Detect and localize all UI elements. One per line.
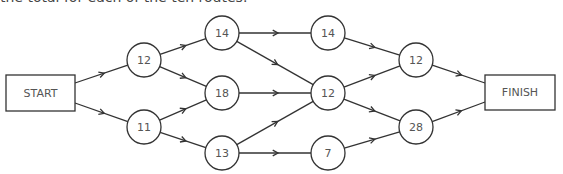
- edge-arrow: [237, 41, 313, 84]
- edge-arrow: [160, 100, 207, 120]
- edge-arrow: [432, 65, 485, 83]
- edge-arrow: [344, 38, 399, 55]
- node-b: 11: [127, 110, 161, 144]
- edge-arrow: [160, 39, 206, 55]
- edge-arrow: [75, 65, 128, 83]
- node-value: 12: [137, 54, 151, 67]
- node-value: 7: [325, 147, 332, 160]
- node-h: 7: [311, 136, 345, 170]
- node-a: 12: [127, 43, 161, 77]
- node-value: 14: [321, 27, 335, 40]
- edge-arrow: [344, 66, 400, 87]
- edge-arrow: [75, 103, 128, 122]
- node-value: 11: [137, 121, 151, 134]
- edge-arrow: [160, 67, 207, 87]
- start-label: START: [24, 87, 58, 100]
- edge-arrow: [344, 99, 400, 121]
- edge-arrow: [344, 132, 399, 148]
- node-value: 28: [409, 121, 423, 134]
- node-j: 28: [399, 110, 433, 144]
- edge-arrow: [160, 132, 206, 147]
- edge-arrow: [237, 101, 313, 144]
- route-network-diagram: STARTFINISH1211141813141271228: [0, 0, 563, 174]
- node-i: 12: [399, 43, 433, 77]
- node-value: 18: [215, 87, 229, 100]
- node-value: 13: [215, 147, 229, 160]
- node-g: 12: [311, 76, 345, 110]
- start-box: START: [6, 75, 75, 111]
- node-c: 14: [205, 16, 239, 50]
- finish-label: FINISH: [502, 86, 538, 99]
- node-d: 18: [205, 76, 239, 110]
- node-e: 13: [205, 136, 239, 170]
- node-value: 12: [321, 87, 335, 100]
- node-value: 12: [409, 54, 423, 67]
- finish-box: FINISH: [485, 75, 555, 110]
- node-f: 14: [311, 16, 345, 50]
- node-value: 14: [215, 27, 229, 40]
- edge-arrow: [432, 102, 485, 122]
